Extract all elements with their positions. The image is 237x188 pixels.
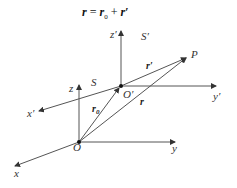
- equation: r = r0 + r′: [82, 5, 128, 21]
- frame-S-prime-label: S′: [141, 30, 150, 42]
- x-axis-label: x: [13, 167, 19, 179]
- frame-S-label: S: [91, 76, 97, 88]
- origin-O-label: O: [73, 141, 81, 153]
- vector-r-prime-label: r′: [146, 60, 153, 71]
- origin-O-prime-label: O′: [123, 88, 134, 100]
- vector-r: [79, 58, 186, 142]
- y-axis-label: y: [171, 142, 177, 154]
- reference-frames-diagram: r = r0 + r′ O y x z S O′ y′ x′ z′ S′ P r…: [0, 0, 237, 188]
- y-prime-axis-label: y′: [212, 90, 221, 102]
- vector-r-prime: [121, 58, 186, 86]
- point-P-label: P: [190, 48, 198, 60]
- x-prime-axis: [39, 86, 121, 111]
- vector-r0-label: r0: [92, 103, 100, 116]
- z-prime-axis-label: z′: [109, 28, 117, 40]
- z-axis-label: z: [68, 82, 74, 94]
- vector-r-label: r: [140, 96, 144, 107]
- x-prime-axis-label: x′: [26, 107, 35, 119]
- x-axis: [15, 142, 79, 166]
